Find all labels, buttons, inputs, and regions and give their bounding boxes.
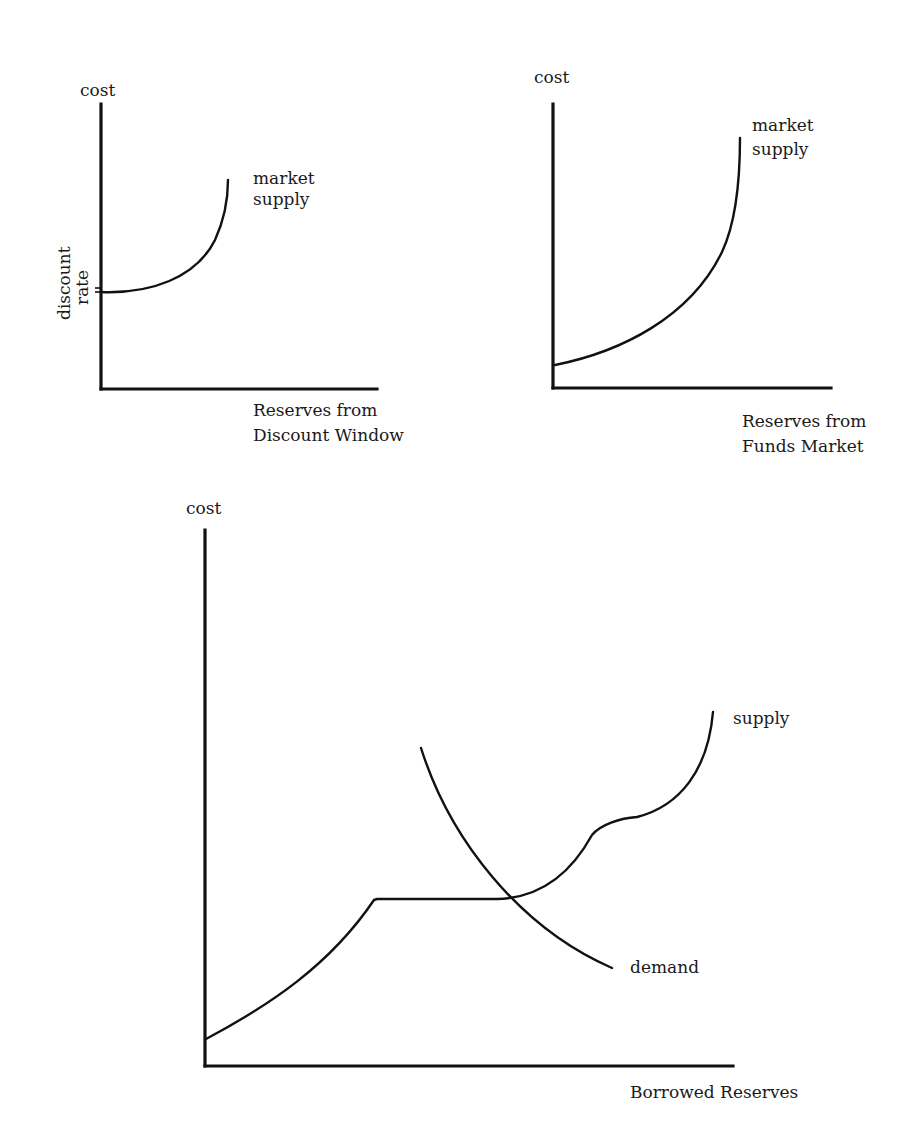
discount-rate-label-line2: rate bbox=[72, 270, 92, 305]
x-axis-label-line2: Funds Market bbox=[742, 436, 864, 456]
curve-label-line2: supply bbox=[253, 189, 310, 209]
x-axis-label: Borrowed Reserves bbox=[630, 1082, 798, 1102]
svg-text:rate: rate bbox=[72, 270, 92, 305]
curve-label-line2: supply bbox=[752, 139, 809, 159]
market-supply-curve bbox=[555, 138, 740, 365]
y-axis-label: cost bbox=[80, 80, 115, 100]
panel-borrowed-reserves: cost supply demand Borrowed Reserves bbox=[186, 498, 798, 1102]
curve-label: market bbox=[752, 115, 814, 135]
y-axis-label: cost bbox=[534, 67, 569, 87]
x-axis-label: Reserves from bbox=[742, 411, 866, 431]
demand-curve bbox=[421, 748, 612, 968]
supply-label: supply bbox=[733, 708, 790, 728]
panel-funds-market: cost market supply Reserves from Funds M… bbox=[534, 67, 866, 456]
market-supply-curve bbox=[101, 180, 228, 292]
svg-text:discount: discount bbox=[54, 246, 74, 320]
diagram-canvas: cost discount rate market supply Reserve… bbox=[0, 0, 900, 1125]
demand-label: demand bbox=[630, 957, 699, 977]
discount-rate-label: discount bbox=[54, 246, 74, 320]
y-axis-label: cost bbox=[186, 498, 221, 518]
x-axis-label: Reserves from bbox=[253, 400, 377, 420]
curve-label: market bbox=[253, 168, 315, 188]
supply-curve bbox=[206, 712, 713, 1039]
panel-discount-window: cost discount rate market supply Reserve… bbox=[54, 80, 404, 445]
x-axis-label-line2: Discount Window bbox=[253, 425, 404, 445]
